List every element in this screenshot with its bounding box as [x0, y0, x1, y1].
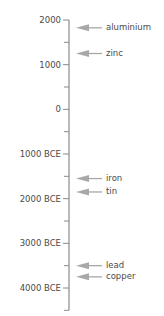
metals-timeline: 2000100001000 BCE2000 BCE3000 BCE4000 BC…	[0, 0, 164, 316]
tick-label: 0	[56, 104, 61, 114]
metal-label-lead: lead	[106, 260, 124, 270]
arrow-icon	[76, 50, 102, 57]
tick-label: 3000 BCE	[20, 238, 61, 248]
metal-label-copper: copper	[106, 271, 135, 281]
tick-label: 2000	[39, 15, 61, 25]
metal-label-tin: tin	[106, 186, 117, 196]
tick-label: 1000 BCE	[20, 149, 61, 159]
metal-label-aluminium: aluminium	[106, 22, 151, 32]
arrow-icon	[76, 24, 102, 31]
metal-label-zinc: zinc	[106, 48, 123, 58]
tick-label: 4000 BCE	[20, 283, 61, 293]
arrow-icon	[76, 262, 102, 269]
arrow-icon	[76, 175, 102, 182]
arrow-icon	[76, 188, 102, 195]
metal-label-iron: iron	[106, 173, 122, 183]
tick-label: 2000 BCE	[20, 194, 61, 204]
arrow-icon	[76, 273, 102, 280]
tick-label: 1000	[39, 60, 61, 70]
